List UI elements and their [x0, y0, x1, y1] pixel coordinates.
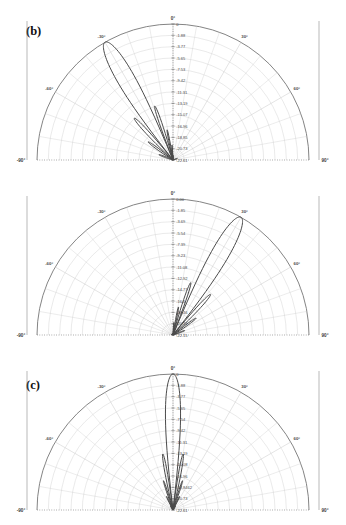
- panel-d: (d) 0-1.88-3.77-5.65-7.54-9.42-11.31-13.…: [0, 350, 346, 525]
- grid-spoke: [45, 288, 173, 335]
- angular-tick-label: 30°: [241, 384, 248, 389]
- panel-b: (b) 0-1.88-3.77-5.65-7.53-9.42-11.31-13.…: [0, 0, 346, 175]
- angular-tick-label: 0°: [171, 366, 176, 371]
- angular-tick-label: 30°: [241, 209, 248, 214]
- radial-tick-label: -1.85: [176, 208, 186, 213]
- angular-tick-label: -90°: [17, 158, 26, 163]
- panel-d-polar-plot: 0-1.88-3.77-5.65-7.54-9.42-11.31-13.19-1…: [0, 350, 346, 525]
- angular-tick-label: -90°: [17, 508, 26, 513]
- radial-tick-label: -11.31: [176, 90, 188, 95]
- grid-spoke: [173, 267, 291, 335]
- angular-tick-label: 0°: [171, 191, 176, 196]
- radial-tick-label: -22.61: [176, 158, 188, 163]
- angular-tick-label: 90°: [322, 333, 329, 338]
- radial-tick-label: -5.65: [176, 406, 186, 411]
- grid-spoke: [45, 463, 173, 510]
- angular-tick-label: 90°: [322, 158, 329, 163]
- angular-tick-label: 60°: [294, 436, 301, 441]
- angular-tick-label: 30°: [241, 34, 248, 39]
- radial-tick-label: -5.54: [176, 231, 186, 236]
- angular-tick-label: -30°: [98, 384, 106, 389]
- grid-spoke: [55, 92, 173, 160]
- radial-tick-label: -15.07: [176, 112, 188, 117]
- angular-tick-label: -60°: [45, 436, 53, 441]
- radial-tick-label: -7.53: [176, 67, 186, 72]
- angular-tick-label: 60°: [294, 261, 301, 266]
- radial-tick-label: -9.42: [176, 78, 186, 83]
- radial-tick-label: -3.77: [176, 44, 186, 49]
- angular-tick-label: 0°: [171, 16, 176, 21]
- angular-tick-label: 90°: [322, 508, 329, 513]
- radial-tick-label: -11.08: [176, 265, 188, 270]
- radial-tick-label: -3.69: [176, 219, 186, 224]
- grid-spoke: [126, 207, 173, 335]
- panel-c: (c) 0.00-1.85-3.69-5.54-7.39-9.23-11.08-…: [0, 175, 346, 350]
- radial-tick-label: -20.73: [176, 146, 188, 151]
- polar-pattern-figure: (b) 0-1.88-3.77-5.65-7.53-9.42-11.31-13.…: [0, 0, 346, 525]
- grid-spoke: [173, 442, 291, 510]
- radial-tick-label: -18.85: [176, 135, 188, 140]
- radial-tick-label: -12.92: [176, 276, 188, 281]
- angular-tick-label: -90°: [17, 333, 26, 338]
- panel-c-polar-plot: 0.00-1.85-3.69-5.54-7.39-9.23-11.08-12.9…: [0, 175, 346, 350]
- angular-tick-label: 60°: [294, 86, 301, 91]
- grid-spoke: [105, 42, 173, 160]
- pattern-curve: [103, 42, 177, 160]
- grid-spoke: [173, 92, 291, 160]
- radial-tick-label: -16.96: [176, 124, 188, 129]
- grid-spoke: [173, 32, 220, 160]
- radial-tick-label: -7.39: [176, 242, 186, 247]
- radial-tick-label: -1.88: [176, 33, 186, 38]
- radial-tick-label: -7.54: [176, 417, 186, 422]
- grid-spoke: [55, 442, 173, 510]
- radial-tick-label: 0.00: [176, 197, 185, 202]
- radial-tick-label: -9.42: [176, 428, 186, 433]
- radial-tick-label: -9.23: [176, 253, 186, 258]
- radial-tick-label: -22.61: [176, 508, 188, 513]
- grid-spoke: [105, 217, 173, 335]
- grid-spoke: [173, 463, 301, 510]
- radial-tick-label: -13.19: [176, 101, 188, 106]
- grid-spoke: [55, 267, 173, 335]
- angular-tick-label: -30°: [98, 34, 106, 39]
- radial-tick-label: -11.31: [176, 440, 188, 445]
- radial-tick-label: -5.65: [176, 56, 186, 61]
- angular-tick-label: -30°: [98, 209, 106, 214]
- grid-spoke: [173, 113, 301, 160]
- angular-tick-label: -60°: [45, 86, 53, 91]
- grid-spoke: [105, 392, 173, 510]
- radial-tick-label: -3.77: [176, 394, 186, 399]
- angular-tick-label: -60°: [45, 261, 53, 266]
- panel-b-polar-plot: 0-1.88-3.77-5.65-7.53-9.42-11.31-13.19-1…: [0, 0, 346, 175]
